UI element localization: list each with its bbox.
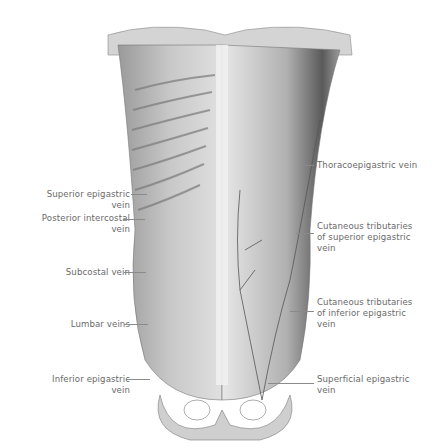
- label-cutaneous-tributaries-inferior: Cutaneous tributaries of inferior epigas…: [317, 297, 412, 330]
- label-line: Superficial epigastric: [317, 374, 410, 385]
- leader-line: [126, 379, 150, 380]
- leader-line: [124, 272, 146, 273]
- label-line: Inferior epigastric: [52, 374, 130, 385]
- label-line: vein: [317, 319, 412, 330]
- label-line: of superior epigastric: [317, 232, 412, 243]
- label-superficial-epigastric-vein: Superficial epigastric vein: [317, 374, 410, 396]
- label-line: vein: [52, 385, 130, 396]
- label-line: Posterior intercostal: [42, 213, 130, 224]
- label-cutaneous-tributaries-superior: Cutaneous tributaries of superior epigas…: [317, 221, 412, 254]
- anatomy-figure: Superior epigastric vein Posterior inter…: [0, 0, 448, 444]
- leader-line: [296, 233, 314, 234]
- label-line: vein: [47, 200, 130, 211]
- leader-line: [123, 219, 145, 220]
- label-line: vein: [317, 385, 410, 396]
- label-thoracoepigastric-vein: Thoracoepigastric vein: [317, 160, 417, 171]
- label-line: Cutaneous tributaries: [317, 221, 412, 232]
- label-line: vein: [42, 224, 130, 235]
- leader-line: [124, 324, 148, 325]
- label-line: vein: [317, 243, 412, 254]
- leader-line: [300, 165, 314, 166]
- label-subcostal-vein: Subcostal vein: [66, 267, 130, 278]
- label-line: Lumbar veins: [71, 319, 130, 330]
- label-posterior-intercostal-vein: Posterior intercostal vein: [42, 213, 130, 235]
- label-line: Cutaneous tributaries: [317, 297, 412, 308]
- label-lumbar-veins: Lumbar veins: [71, 319, 130, 330]
- label-line: Subcostal vein: [66, 267, 130, 278]
- label-superior-epigastric-vein: Superior epigastric vein: [47, 189, 130, 211]
- leader-line: [290, 311, 314, 312]
- label-line: Superior epigastric: [47, 189, 130, 200]
- label-line: Thoracoepigastric vein: [317, 160, 417, 171]
- leader-line: [131, 194, 147, 195]
- label-inferior-epigastric-vein: Inferior epigastric vein: [52, 374, 130, 396]
- leader-line: [268, 383, 314, 384]
- label-line: of inferior epigastric: [317, 308, 412, 319]
